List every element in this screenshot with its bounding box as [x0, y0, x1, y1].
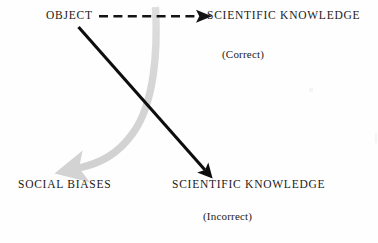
diagram-arrows-layer — [0, 0, 378, 243]
annotation-incorrect: (Incorrect) — [203, 211, 252, 222]
scan-artifact — [121, 80, 128, 82]
curved-gray-arrow-to-social-biases — [79, 7, 156, 168]
diagram-canvas: OBJECT SCIENTIFIC KNOWLEDGE (Correct) SO… — [0, 0, 378, 243]
scan-artifact — [309, 88, 313, 92]
scan-artifact — [375, 133, 377, 143]
solid-diagonal-arrow-object-to-incorrect-knowledge — [79, 27, 206, 170]
annotation-correct: (Correct) — [222, 49, 264, 60]
node-label-object: OBJECT — [46, 10, 93, 22]
node-label-scientific-knowledge-incorrect: SCIENTIFIC KNOWLEDGE — [172, 179, 325, 191]
node-label-social-biases: SOCIAL BIASES — [18, 179, 111, 191]
node-label-scientific-knowledge-correct: SCIENTIFIC KNOWLEDGE — [207, 10, 360, 22]
